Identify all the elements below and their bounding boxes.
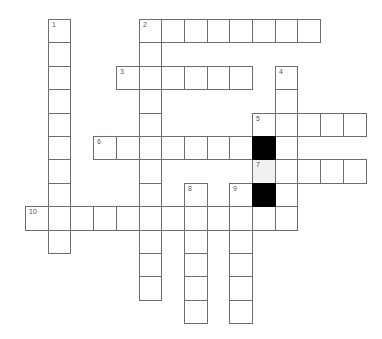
crossword-cell[interactable] bbox=[229, 230, 253, 254]
crossword-cell[interactable] bbox=[48, 66, 71, 90]
crossword-cell[interactable]: 10 bbox=[25, 206, 49, 231]
crossword-cell[interactable] bbox=[229, 19, 253, 43]
crossword-cell[interactable]: 5 bbox=[252, 113, 276, 137]
crossword-cell[interactable] bbox=[161, 206, 185, 231]
crossword-cell[interactable] bbox=[184, 276, 208, 301]
crossword-cell[interactable]: 9 bbox=[229, 183, 253, 207]
crossword-cell[interactable] bbox=[139, 113, 162, 137]
crossword-cell[interactable] bbox=[297, 159, 321, 184]
crossword-cell[interactable]: 6 bbox=[93, 136, 117, 160]
crossword-cell[interactable] bbox=[297, 113, 321, 137]
crossword-cell[interactable] bbox=[48, 183, 71, 207]
crossword-cell[interactable] bbox=[48, 113, 71, 137]
crossword-cell[interactable]: 8 bbox=[184, 183, 208, 207]
crossword-cell[interactable]: 2 bbox=[139, 19, 162, 43]
crossword-cell[interactable] bbox=[139, 136, 162, 160]
crossword-grid: 12345678910 bbox=[0, 0, 382, 339]
crossword-cell[interactable] bbox=[229, 300, 253, 324]
crossword-cell[interactable] bbox=[207, 66, 230, 90]
crossword-cell[interactable] bbox=[139, 253, 162, 277]
crossword-cell[interactable] bbox=[229, 253, 253, 277]
crossword-cell[interactable]: 4 bbox=[275, 66, 298, 90]
clue-number: 3 bbox=[120, 68, 124, 76]
crossword-cell[interactable] bbox=[70, 206, 94, 231]
crossword-cell[interactable] bbox=[184, 206, 208, 231]
crossword-cell[interactable] bbox=[297, 19, 321, 43]
clue-number: 10 bbox=[29, 208, 37, 216]
crossword-cell[interactable] bbox=[275, 89, 298, 114]
crossword-cell[interactable] bbox=[184, 253, 208, 277]
crossword-cell[interactable] bbox=[48, 159, 71, 184]
crossword-cell[interactable] bbox=[275, 19, 298, 43]
crossword-cell[interactable] bbox=[275, 206, 298, 231]
crossword-cell[interactable] bbox=[184, 136, 208, 160]
clue-number: 1 bbox=[52, 21, 56, 29]
crossword-cell[interactable] bbox=[275, 183, 298, 207]
crossword-cell[interactable] bbox=[48, 230, 71, 254]
crossword-cell[interactable] bbox=[184, 300, 208, 324]
crossword-cell[interactable] bbox=[320, 159, 344, 184]
crossword-cell[interactable] bbox=[184, 230, 208, 254]
crossword-cell[interactable] bbox=[184, 66, 208, 90]
crossword-cell[interactable] bbox=[320, 113, 344, 137]
crossword-cell[interactable] bbox=[275, 113, 298, 137]
crossword-cell[interactable]: 1 bbox=[48, 19, 71, 43]
crossword-cell[interactable]: 3 bbox=[116, 66, 140, 90]
crossword-cell[interactable] bbox=[48, 206, 71, 231]
crossword-cell[interactable] bbox=[207, 206, 230, 231]
black-square bbox=[252, 183, 276, 207]
crossword-cell[interactable] bbox=[139, 206, 162, 231]
crossword-cell[interactable] bbox=[48, 89, 71, 114]
crossword-cell[interactable] bbox=[139, 89, 162, 114]
crossword-cell[interactable] bbox=[48, 42, 71, 67]
crossword-cell[interactable] bbox=[93, 206, 117, 231]
crossword-cell[interactable] bbox=[139, 183, 162, 207]
crossword-cell[interactable] bbox=[343, 159, 367, 184]
crossword-cell[interactable] bbox=[207, 19, 230, 43]
crossword-cell[interactable] bbox=[229, 66, 253, 90]
crossword-cell[interactable] bbox=[275, 136, 298, 160]
crossword-cell[interactable] bbox=[229, 136, 253, 160]
crossword-cell[interactable] bbox=[116, 206, 140, 231]
crossword-cell[interactable] bbox=[275, 159, 298, 184]
clue-number: 9 bbox=[233, 185, 237, 193]
crossword-cell[interactable] bbox=[343, 113, 367, 137]
crossword-cell[interactable] bbox=[139, 42, 162, 67]
crossword-cell[interactable] bbox=[139, 66, 162, 90]
crossword-cell[interactable]: 7 bbox=[252, 159, 276, 184]
clue-number: 5 bbox=[256, 115, 260, 123]
crossword-cell[interactable] bbox=[139, 159, 162, 184]
crossword-cell[interactable] bbox=[229, 206, 253, 231]
crossword-cell[interactable] bbox=[229, 276, 253, 301]
clue-number: 6 bbox=[97, 138, 101, 146]
clue-number: 4 bbox=[279, 68, 283, 76]
crossword-cell[interactable] bbox=[207, 136, 230, 160]
crossword-cell[interactable] bbox=[139, 230, 162, 254]
crossword-cell[interactable] bbox=[161, 136, 185, 160]
crossword-cell[interactable] bbox=[161, 66, 185, 90]
crossword-cell[interactable] bbox=[48, 136, 71, 160]
crossword-cell[interactable] bbox=[252, 19, 276, 43]
clue-number: 7 bbox=[256, 161, 260, 169]
clue-number: 2 bbox=[143, 21, 147, 29]
crossword-cell[interactable] bbox=[252, 206, 276, 231]
crossword-cell[interactable] bbox=[184, 19, 208, 43]
crossword-cell[interactable] bbox=[161, 19, 185, 43]
crossword-cell[interactable] bbox=[116, 136, 140, 160]
black-square bbox=[252, 136, 276, 160]
clue-number: 8 bbox=[188, 185, 192, 193]
crossword-cell[interactable] bbox=[139, 276, 162, 301]
